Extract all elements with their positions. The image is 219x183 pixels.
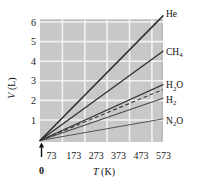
y-axis-title-group: V (L) [6, 77, 18, 98]
y-tick-label-4: 4 [31, 56, 36, 67]
x-axis-tick-labels: 73 173 273 373 473 573 [47, 150, 171, 161]
y-tick-label-6: 6 [31, 17, 36, 28]
series-label-h2: H2 [166, 95, 177, 107]
origin-arrow [39, 143, 44, 158]
x-tick-label-73: 73 [47, 150, 57, 161]
y-tick-label-2: 2 [31, 95, 36, 106]
x-tick-label-273: 273 [89, 150, 104, 161]
y-tick-label-1: 1 [31, 115, 36, 126]
series-label-ch4-subscript: 4 [179, 51, 183, 58]
x-tick-label-373: 373 [111, 150, 126, 161]
series-label-h2o-tail: O [176, 80, 183, 90]
series-label-n2o: N2O [166, 116, 183, 128]
y-tick-label-5: 5 [31, 36, 36, 47]
origin-zero-label: 0 [39, 165, 44, 176]
series-label-ch4-base: CH [166, 47, 179, 57]
x-tick-label-173: 173 [66, 150, 81, 161]
series-label-he: He [166, 9, 177, 19]
series-label-h2-subscript: 2 [173, 99, 177, 106]
x-tick-label-573: 573 [156, 150, 171, 161]
charles-law-chart-figure: 6 5 4 3 2 1 V (L) 0 73 173 273 373 473 5… [0, 0, 219, 183]
series-label-ch4: CH4 [166, 47, 183, 59]
y-axis-title-unit: (L) [6, 77, 18, 92]
series-label-n2o-tail: O [176, 116, 183, 126]
series-label-h2o: H2O [166, 80, 183, 92]
y-axis-title: V (L) [6, 77, 18, 98]
y-tick-label-3: 3 [31, 75, 36, 86]
chart-canvas: 6 5 4 3 2 1 V (L) 0 73 173 273 373 473 5… [0, 0, 219, 183]
y-axis-tick-labels: 6 5 4 3 2 1 [31, 17, 36, 126]
x-tick-label-473: 473 [134, 150, 149, 161]
x-axis-title-unit: (K) [99, 166, 115, 178]
origin-arrow-head [39, 143, 44, 148]
x-axis-title: T (K) [93, 166, 115, 178]
